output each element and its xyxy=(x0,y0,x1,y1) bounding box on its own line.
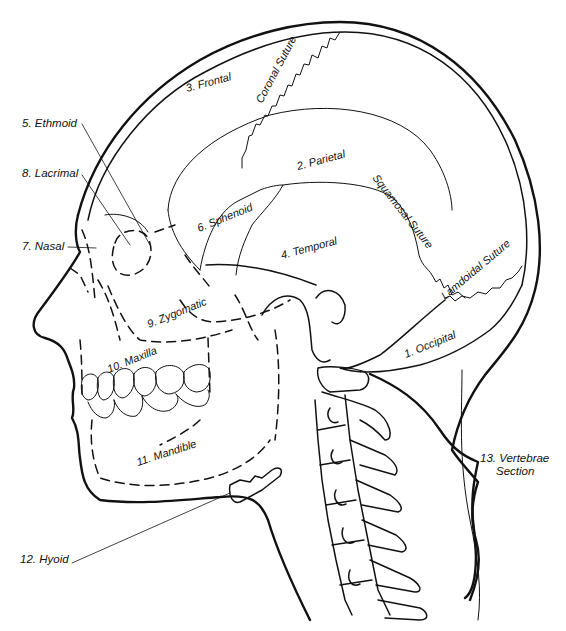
label-occipital: 1. Occipital xyxy=(402,328,457,360)
label-sphenoid: 6. Sphenoid xyxy=(195,200,255,233)
sphenoid-boundary xyxy=(168,185,283,275)
label-nasal: 7. Nasal xyxy=(22,240,65,252)
ethmoid-leader xyxy=(82,124,150,245)
occipital-boundary xyxy=(340,285,522,372)
temporal-lower xyxy=(206,265,316,285)
skull-anatomy-diagram: 3. Frontal 2. Parietal 6. Sphenoid 4. Te… xyxy=(0,0,566,631)
zygomatic-dashes xyxy=(108,255,258,342)
label-parietal: 2. Parietal xyxy=(294,147,346,172)
label-vertebrae-line2: Section xyxy=(496,465,534,477)
label-zygomatic: 9. Zygomatic xyxy=(145,295,208,330)
lacrimal-leader xyxy=(82,175,130,245)
teeth xyxy=(81,365,210,419)
label-lamdoidal-suture: Lamdoidal Suture xyxy=(439,237,513,302)
label-vertebrae-line1: 13. Vertebrae xyxy=(480,452,549,464)
label-maxilla: 10. Maxilla xyxy=(105,344,158,375)
label-ethmoid: 5. Ethmoid xyxy=(22,117,78,129)
label-temporal: 4. Temporal xyxy=(279,234,338,261)
mandible-dashes xyxy=(91,330,278,486)
label-coronal-suture: Coronal Suture xyxy=(253,34,298,105)
label-hyoid: 12. Hyoid xyxy=(20,553,69,565)
mastoid-condyle xyxy=(262,291,345,362)
cervical-vertebrae xyxy=(315,367,427,620)
label-mandible: 11. Mandible xyxy=(135,437,198,468)
label-squamosal-suture: Squamosal Suture xyxy=(370,172,435,251)
hyoid-leader xyxy=(72,493,230,563)
nasal-leader xyxy=(68,247,96,248)
label-lacrimal: 8. Lacrimal xyxy=(22,167,79,179)
label-frontal: 3. Frontal xyxy=(184,70,233,94)
face-profile xyxy=(34,215,310,620)
nasal-dashes xyxy=(70,225,290,340)
